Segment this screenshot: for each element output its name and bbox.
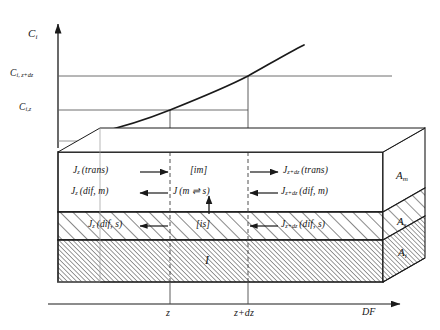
jz-trans-paren: (trans) (80, 165, 109, 175)
jzdz-dif-m-sub: z+dz (285, 190, 297, 196)
jzdz-trans-paren: (trans) (299, 165, 328, 175)
area-s-main: A (397, 215, 404, 227)
flux-label-exchange: J(m ⇌ s) (173, 187, 210, 197)
jzdz-dif-s-paren: (dif, s) (297, 219, 325, 229)
concentration-profile-curve (96, 45, 304, 133)
x-tick-label-z: z (166, 308, 170, 318)
flux-label-jz-dif-m: Jz(dif, m) (71, 187, 109, 197)
phase-tag-mobile: [im] (190, 166, 207, 176)
conc-z-sub: i,z (25, 106, 31, 112)
mobile-zone-region (58, 152, 383, 212)
x-tick-label-zdz: z+dz (234, 308, 254, 318)
area-m-main: A (396, 169, 403, 181)
phase-tag-stagnant: [is] (196, 220, 210, 230)
area-label-mobile: Am (396, 170, 408, 183)
concentration-label-z-plus-dz: Ci, z+dz (10, 69, 33, 79)
jz-dif-m-paren: (dif, m) (78, 186, 109, 196)
immobile-zone-label: I (205, 254, 209, 266)
top-face (58, 128, 425, 152)
area-s-sub: s (404, 221, 407, 229)
jzdz-dif-s-sub: z+dz (285, 223, 297, 229)
diagram-svg (0, 0, 440, 330)
jzdz-trans-sub: z+dz (287, 169, 299, 175)
flux-label-jz-dif-s: Jz(dif, s) (88, 220, 122, 230)
area-i-main: A (398, 246, 405, 258)
flux-label-jzdz-trans: Jz+dz(trans) (283, 166, 328, 176)
conc-zdz-sub: i, z+dz (16, 72, 33, 78)
jz-dif-s-paren: (dif, s) (95, 219, 123, 229)
flux-label-jzdz-dif-m: Jz+dz(dif, m) (281, 187, 328, 197)
distance-axis (48, 282, 400, 304)
y-axis-label: Ci (28, 28, 37, 41)
y-axis-label-sub: i (35, 33, 37, 41)
area-m-sub: m (403, 175, 408, 183)
area-label-immobile: Ai (398, 247, 407, 260)
flux-label-jz-trans: Jz(trans) (73, 166, 108, 176)
exchange-paren: (m ⇌ s) (177, 186, 209, 196)
area-i-sub: i (405, 252, 407, 260)
jzdz-dif-m-paren: (dif, m) (297, 186, 328, 196)
concentration-label-z: Ci,z (19, 103, 31, 113)
area-label-stagnant: As (397, 216, 407, 229)
x-axis-label: DF (362, 307, 376, 317)
figure-canvas: Ci Ci, z+dz Ci,z Jz(trans) Jz(dif, m) [i… (0, 0, 440, 330)
concentration-level-lines (58, 76, 392, 110)
immobile-zone-region (58, 240, 383, 282)
flux-label-jzdz-dif-s: Jz+dz(dif, s) (281, 220, 325, 230)
